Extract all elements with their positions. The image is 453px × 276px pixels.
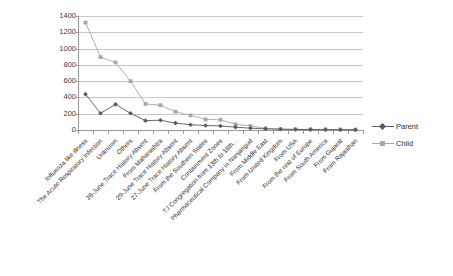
x-tick-label: From United Kingdom [137, 137, 283, 276]
data-point-parent [218, 124, 223, 129]
diamond-marker-icon [372, 122, 394, 131]
y-tick-label: 1000 [42, 45, 76, 53]
y-tick-label: 200 [42, 110, 76, 118]
x-tick-label: 27-June Trace History Absent [47, 137, 193, 276]
data-point-child [159, 103, 163, 107]
x-tick-mark [108, 131, 109, 134]
x-tick-mark [243, 131, 244, 134]
data-point-parent [203, 123, 208, 128]
x-tick-mark [333, 131, 334, 134]
x-tick-mark [348, 131, 349, 134]
x-tick-mark [138, 131, 139, 134]
x-tick-mark [273, 131, 274, 134]
data-point-child [129, 79, 133, 83]
x-tick-label: Pharmaceutical Company in Nanjangud [107, 137, 253, 276]
x-tick-label: From Middle East [122, 137, 268, 276]
data-point-child [219, 118, 223, 122]
legend-label: Child [396, 139, 413, 148]
data-series-layer [78, 16, 364, 131]
legend-item-parent[interactable]: Parent [372, 118, 450, 135]
y-tick-label: 800 [42, 61, 76, 69]
x-tick-mark [198, 131, 199, 134]
series-line-child [86, 23, 356, 130]
x-tick-label: From the Southern States [62, 137, 208, 276]
data-point-parent [158, 118, 163, 123]
y-tick-label: 1200 [42, 28, 76, 36]
x-tick-label: From Rajasthan [212, 137, 358, 276]
x-tick-mark [318, 131, 319, 134]
x-tick-label: TJ Congregation from 13th to 18th... [92, 137, 238, 276]
x-tick-label: From the rest of Europe [167, 137, 313, 276]
x-tick-label: From South America [182, 137, 328, 276]
y-tick-label: 600 [42, 77, 76, 85]
data-point-parent [128, 111, 133, 116]
data-point-child [84, 21, 88, 25]
legend-item-child[interactable]: Child [372, 135, 450, 152]
data-point-child [99, 55, 103, 59]
legend-symbol [380, 141, 385, 146]
data-point-parent [188, 122, 193, 127]
x-tick-mark [123, 131, 124, 134]
x-tick-mark [213, 131, 214, 134]
x-tick-label: 28-June Trace History Absent [2, 137, 148, 276]
legend-symbol [379, 123, 386, 130]
data-point-child [144, 102, 148, 106]
x-tick-label: The Acute Respiratory Infection [0, 137, 103, 276]
x-tick-mark [183, 131, 184, 134]
legend-label: Parent [396, 122, 418, 131]
x-tick-label: Containment Zones [77, 137, 223, 276]
x-tick-label: Unknown [0, 137, 118, 276]
data-point-child [114, 61, 118, 65]
x-tick-mark [93, 131, 94, 134]
data-point-parent [113, 102, 118, 107]
x-tick-label: Influenza like illness [0, 137, 88, 276]
data-point-child [189, 113, 193, 117]
x-tick-label: 29-June Trace History Absent [32, 137, 178, 276]
x-tick-label: From Maharashtra [17, 137, 163, 276]
data-point-child [204, 118, 208, 122]
x-tick-mark [363, 131, 364, 134]
x-tick-mark [288, 131, 289, 134]
x-tick-label: From Gujarat [197, 137, 343, 276]
x-tick-mark [258, 131, 259, 134]
data-point-parent [143, 118, 148, 123]
y-tick-label: 0 [42, 126, 76, 134]
data-point-child [174, 110, 178, 114]
x-tick-mark [153, 131, 154, 134]
chart-legend: ParentChild [372, 118, 450, 152]
x-tick-mark [78, 131, 79, 134]
y-tick-label: 400 [42, 93, 76, 101]
square-marker-icon [372, 139, 394, 148]
x-tick-mark [168, 131, 169, 134]
line-chart: 1400120010008006004002000 Influenza like… [0, 0, 453, 276]
x-tick-label: Others [0, 137, 133, 276]
y-tick-label: 1400 [42, 12, 76, 20]
x-tick-mark [228, 131, 229, 134]
x-tick-mark [303, 131, 304, 134]
data-point-parent [173, 121, 178, 126]
x-tick-label: From USA [152, 137, 298, 276]
y-axis-tick-labels: 1400120010008006004002000 [40, 16, 76, 131]
